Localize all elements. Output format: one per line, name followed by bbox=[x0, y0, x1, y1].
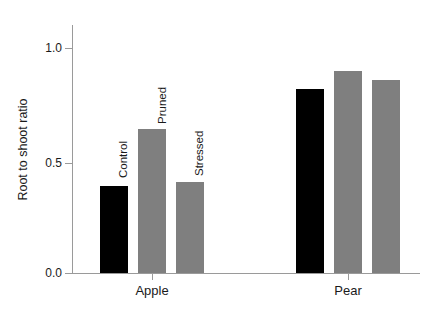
y-tick-label-0: 0.0 bbox=[28, 267, 62, 279]
y-tick-label-2: 1.0 bbox=[28, 42, 62, 54]
bar-pear-pruned bbox=[334, 71, 362, 273]
x-tick-label-pear: Pear bbox=[334, 283, 361, 298]
y-axis-line bbox=[72, 25, 73, 274]
bar-chart: Root to shoot ratio 0.0 0.5 1.0 Apple Pe… bbox=[0, 0, 429, 314]
y-tick-mark-2 bbox=[65, 48, 72, 49]
series-label-pruned: Pruned bbox=[157, 87, 169, 124]
y-tick-label-1: 0.5 bbox=[28, 157, 62, 169]
bar-apple-stressed bbox=[176, 182, 204, 273]
bar-pear-stressed bbox=[372, 80, 400, 273]
y-tick-mark-1 bbox=[65, 163, 72, 164]
x-tick-mark-pear bbox=[348, 274, 349, 280]
x-tick-mark-apple bbox=[152, 274, 153, 280]
plot-area: Root to shoot ratio 0.0 0.5 1.0 Apple Pe… bbox=[0, 0, 429, 314]
y-tick-mark-0 bbox=[65, 273, 72, 274]
bar-pear-control bbox=[296, 89, 324, 273]
series-label-stressed: Stressed bbox=[194, 131, 206, 176]
bar-apple-pruned bbox=[138, 129, 166, 273]
bar-apple-control bbox=[100, 186, 128, 273]
y-axis-title: Root to shoot ratio bbox=[12, 25, 34, 274]
series-label-control: Control bbox=[118, 141, 130, 178]
x-tick-label-apple: Apple bbox=[135, 283, 168, 298]
x-axis-line bbox=[72, 273, 420, 274]
